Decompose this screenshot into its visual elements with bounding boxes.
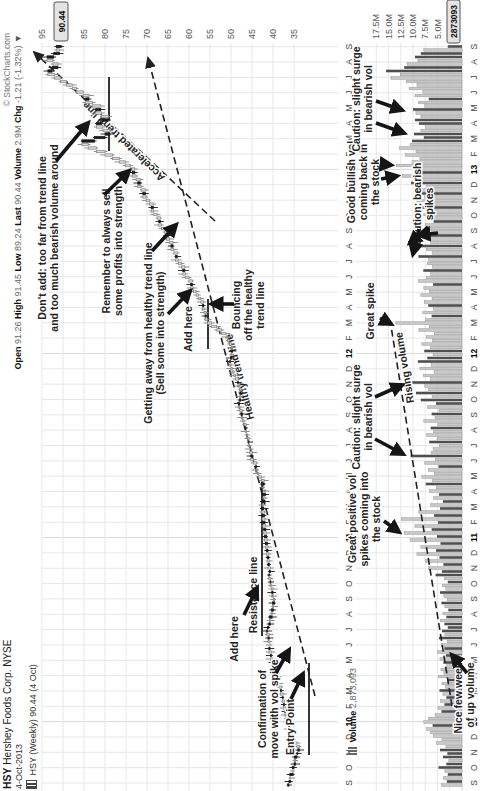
candle [262, 514, 265, 516]
volume-bar [429, 567, 462, 570]
candle [176, 255, 178, 257]
candle [242, 416, 243, 418]
ohlc-value: 90.44 [13, 180, 23, 208]
candle [289, 780, 291, 782]
volume-bar [416, 392, 462, 395]
candle [97, 150, 105, 152]
volume-bar [439, 444, 462, 447]
candle [269, 577, 271, 579]
volume-bar [424, 49, 462, 52]
volume-bar [429, 259, 462, 262]
volume-bar [419, 171, 462, 174]
date-tick-label: M [469, 104, 479, 111]
ohlc-label: Volume [13, 148, 23, 180]
candle [55, 77, 61, 79]
volume-bar [421, 399, 462, 402]
candle [60, 80, 66, 82]
candle [270, 584, 271, 586]
volume-bar [423, 91, 462, 94]
date-tick-label: A [469, 488, 479, 494]
date-tick-label: 12 [344, 348, 354, 358]
candle [264, 528, 266, 530]
date-tick-label: A [469, 243, 479, 249]
volume-tick-label: 17.5M [371, 14, 381, 39]
date-tick-label: N [469, 749, 479, 755]
volume-bar [409, 87, 462, 90]
volume-bar [417, 553, 462, 556]
date-tick-label: 11 [469, 533, 479, 542]
volume-bar [434, 497, 462, 500]
volume-bar [432, 252, 462, 255]
candle [205, 318, 208, 320]
volume-bar [418, 59, 462, 62]
candle [266, 549, 268, 551]
date-tick-label: A [344, 304, 354, 310]
volume-bar [432, 395, 462, 398]
volume-bar [399, 147, 462, 150]
date-tick-label: S [469, 780, 479, 786]
candle [183, 273, 186, 275]
volume-bar [429, 441, 462, 444]
axis-labels: 95858075706560555045403590.4417.5M15.0M1… [37, 0, 460, 43]
date-tick-label: S [469, 44, 479, 50]
volume-bar [418, 280, 462, 283]
candle [254, 462, 257, 464]
candle [52, 66, 58, 68]
candle [198, 297, 201, 299]
candle [263, 521, 265, 523]
candle [82, 143, 88, 145]
volume-bar [433, 283, 462, 286]
volume-bar [427, 227, 462, 230]
candle [294, 756, 297, 758]
annotation-text: Caution: slight surge [350, 364, 362, 469]
candle [76, 91, 83, 93]
volume-bar [439, 556, 462, 559]
volume-bar [430, 290, 462, 293]
candle [261, 511, 264, 513]
candle [248, 444, 249, 446]
candle [48, 70, 52, 72]
candle [130, 168, 135, 170]
candle [263, 483, 264, 485]
date-tick-label: N [469, 381, 479, 387]
candle [273, 602, 275, 604]
candle [47, 56, 54, 58]
annotation-text: spikes [423, 188, 435, 221]
date-tick-label: A [469, 304, 479, 310]
volume-bar [426, 126, 462, 129]
price-tick-label: 45 [247, 29, 257, 39]
volume-bar [437, 742, 462, 745]
volume-bar [435, 416, 462, 419]
candle [151, 206, 153, 208]
annotation-arrow [419, 233, 438, 235]
volume-bar [446, 763, 462, 766]
volume-bar [441, 602, 462, 605]
volume-bar [438, 766, 462, 769]
candle [238, 385, 240, 387]
volume-bar [425, 105, 462, 108]
volume-bar [430, 490, 462, 493]
volume-bar [391, 77, 462, 80]
volume-bar [412, 140, 462, 143]
volume-bar [410, 143, 462, 146]
candle [231, 367, 232, 369]
candle [201, 301, 204, 303]
volume-bar [432, 297, 462, 300]
volume-bar [410, 539, 462, 542]
volume-bar [428, 238, 462, 241]
volume-bar [418, 360, 462, 363]
date-tick-label: S [344, 596, 354, 602]
volume-bar [439, 637, 462, 640]
date-tick-label: M [469, 289, 479, 296]
volume-bar [440, 591, 462, 594]
candle [97, 122, 102, 124]
candle [174, 252, 177, 254]
volume-bar [434, 371, 462, 374]
date-tick-label: D [469, 182, 479, 188]
volume-bar [446, 745, 462, 748]
volume-tick-label: 7.5M [420, 19, 430, 39]
candle [263, 497, 265, 499]
volume-bar [426, 224, 462, 227]
candle [95, 136, 106, 138]
candle [232, 371, 234, 373]
